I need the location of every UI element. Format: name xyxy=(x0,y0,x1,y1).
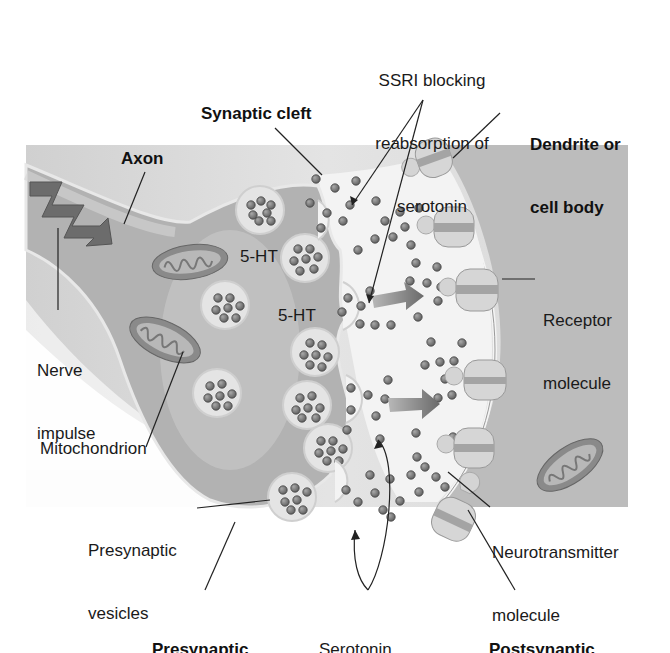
label-5ht-upper: 5-HT xyxy=(240,247,278,267)
label-synaptic-cleft: Synaptic cleft xyxy=(201,103,312,124)
label-neurotransmitter-molecule: Neurotransmitter molecule xyxy=(492,500,619,653)
label-5ht-lower: 5-HT xyxy=(278,306,316,326)
label-ssri: SSRI blocking reabsorption of serotonin xyxy=(362,28,502,259)
synapse-diagram: SSRI blocking reabsorption of serotonin … xyxy=(0,0,670,653)
label-axon: Axon xyxy=(121,148,164,169)
label-dendrite: Dendrite or cell body xyxy=(530,92,621,260)
label-presynaptic-membrane: Presynaptic membrane xyxy=(152,597,248,653)
label-receptor-molecule: Receptor molecule xyxy=(543,268,612,436)
label-nerve-impulse: Nerve impulse xyxy=(37,318,96,486)
label-mitochondrion: Mitochondrion xyxy=(40,438,147,459)
label-serotonin-released: Serotonin is released xyxy=(313,597,395,653)
